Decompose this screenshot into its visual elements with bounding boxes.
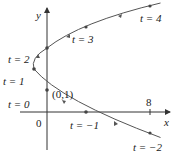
point-label: (0,1) bbox=[52, 88, 73, 101]
x-axis-label: x bbox=[163, 116, 169, 128]
point-t2 bbox=[45, 46, 49, 50]
label-t4: t = 4 bbox=[140, 12, 162, 24]
y-axis-label: y bbox=[35, 9, 41, 21]
label-t1: t = 1 bbox=[3, 75, 24, 87]
direction-arrow-icon bbox=[62, 100, 66, 104]
point-t-minus2 bbox=[148, 131, 151, 134]
label-t2: t = 2 bbox=[8, 53, 30, 65]
point-t3 bbox=[84, 25, 87, 28]
parametric-plot: y x 0 8 (0,1) t = 4 t = 3 t = 2 t = 1 t … bbox=[0, 0, 175, 153]
point-t-minus1 bbox=[84, 110, 88, 114]
direction-arrow-icon bbox=[114, 121, 118, 126]
point-t4 bbox=[148, 4, 151, 7]
origin-label: 0 bbox=[36, 117, 42, 129]
point-t0 bbox=[45, 88, 49, 92]
label-t-minus1: t = −1 bbox=[70, 119, 99, 131]
label-t3: t = 3 bbox=[72, 33, 94, 45]
x-tick-label: 8 bbox=[146, 96, 152, 108]
label-t0: t = 0 bbox=[8, 98, 30, 110]
point-t1 bbox=[32, 67, 36, 71]
label-t-minus2: t = −2 bbox=[133, 141, 162, 153]
